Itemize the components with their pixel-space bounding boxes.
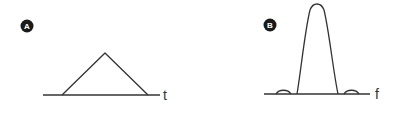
diagram-canvas: A t B f [0, 0, 402, 135]
panel-a: A t [21, 20, 168, 104]
badge-a: A [21, 20, 34, 33]
triangle-pulse [62, 53, 148, 95]
badge-a-label: A [24, 22, 30, 31]
frequency-axis-label: f [375, 86, 379, 102]
badge-b: B [264, 19, 277, 32]
panel-b: B f [264, 4, 380, 102]
main-lobe [297, 4, 338, 94]
badge-b-label: B [267, 21, 273, 30]
time-axis-label: t [163, 87, 167, 103]
